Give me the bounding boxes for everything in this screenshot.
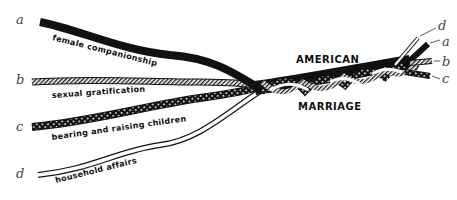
twisted-rope xyxy=(255,62,418,92)
letter-b-right: b xyxy=(442,54,450,69)
strand-b-sexual-gratification xyxy=(32,80,268,85)
title-american: AMERICAN xyxy=(296,54,359,65)
letter-d-right: d xyxy=(438,18,446,33)
letter-a-right: a xyxy=(442,34,450,49)
letter-b-left: b xyxy=(16,72,24,87)
letter-c-right: c xyxy=(442,71,450,86)
letter-d-left: d xyxy=(16,166,24,181)
rope-diagram: a b c d d a b c female companionship sex… xyxy=(0,0,457,200)
letter-a-left: a xyxy=(16,12,24,27)
title-marriage: MARRIAGE xyxy=(298,101,362,112)
letter-c-left: c xyxy=(16,119,24,134)
label-sexual-gratification: sexual gratification xyxy=(52,84,146,100)
